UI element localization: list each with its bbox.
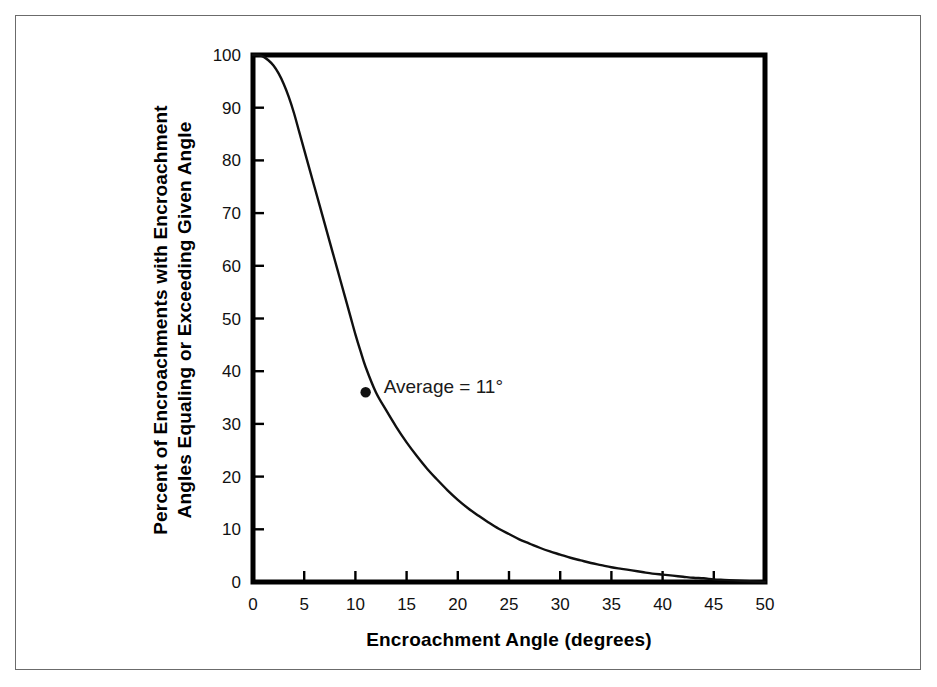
figure-root: Percent of Encroachments with Encroachme… [0,0,937,687]
plot-frame [253,55,765,582]
x-tick-label: 10 [346,595,365,614]
x-axis-title: Encroachment Angle (degrees) [366,629,652,650]
x-tick-label: 45 [704,595,723,614]
chart-plot-wrapper: Percent of Encroachments with Encroachme… [0,0,937,687]
y-tick-label: 10 [222,520,241,539]
y-tick-label: 0 [232,573,241,592]
x-tick-label: 20 [448,595,467,614]
y-axis-title-line1: Percent of Encroachments with Encroachme… [150,105,171,535]
y-tick-label: 60 [222,257,241,276]
y-axis-ticks: 0102030405060708090100 [213,46,264,592]
y-tick-label: 100 [213,46,241,65]
y-tick-label: 90 [222,99,241,118]
x-tick-label: 30 [551,595,570,614]
y-axis-title-line2: Angles Equaling or Exceeding Given Angle [174,122,195,519]
average-annotation-label: Average = 11° [384,376,503,397]
x-tick-label: 15 [397,595,416,614]
average-annotation: Average = 11° [360,376,503,397]
x-tick-label: 40 [653,595,672,614]
data-curve-line [253,55,765,582]
encroachment-angle-chart: Percent of Encroachments with Encroachme… [0,0,937,687]
y-tick-label: 30 [222,415,241,434]
y-tick-label: 20 [222,468,241,487]
x-tick-label: 35 [602,595,621,614]
x-tick-label: 5 [299,595,308,614]
x-tick-label: 25 [500,595,519,614]
average-marker-dot [360,387,370,397]
y-tick-label: 70 [222,204,241,223]
y-tick-label: 40 [222,362,241,381]
y-tick-label: 80 [222,151,241,170]
y-tick-label: 50 [222,310,241,329]
x-tick-label: 0 [248,595,257,614]
y-axis-title: Percent of Encroachments with Encroachme… [150,105,195,535]
x-tick-label: 50 [756,595,775,614]
